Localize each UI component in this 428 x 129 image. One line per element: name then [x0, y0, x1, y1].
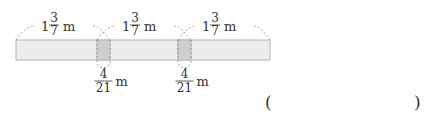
strip-arc-right [93, 26, 110, 40]
overlap-unit: m [116, 74, 128, 89]
strip-numerator: 3 [211, 11, 219, 25]
strip-unit: m [224, 19, 236, 34]
overlap-numerator: 4 [100, 67, 108, 81]
overlap-denominator: 21 [96, 81, 111, 95]
overlap-region [97, 40, 110, 60]
overlap-numerator: 4 [181, 67, 189, 81]
strip-denominator: 7 [50, 24, 58, 38]
strip-unit: m [144, 19, 156, 34]
overlap-region [178, 40, 191, 60]
strip-denominator: 7 [131, 24, 139, 38]
answer-open-paren: ( [265, 92, 272, 112]
strip-whole: 1 [41, 19, 49, 34]
strip-unit: m [63, 19, 75, 34]
overlap-denominator: 21 [177, 81, 192, 95]
strip-denominator: 7 [211, 24, 219, 38]
strip-whole: 1 [122, 19, 130, 34]
strip-numerator: 3 [131, 11, 139, 25]
strip-arc-right [174, 26, 191, 40]
strip-whole: 1 [202, 19, 210, 34]
strip-arc-left [178, 26, 196, 40]
answer-close-paren: ) [414, 92, 421, 112]
strip-arc-left [97, 26, 116, 40]
strip-arc-right [254, 26, 270, 40]
strip-arc-left [16, 26, 35, 40]
strip-numerator: 3 [50, 11, 58, 25]
overlap-unit: m [197, 74, 209, 89]
answer-blank[interactable] [286, 96, 411, 114]
tape-strip [16, 40, 270, 60]
